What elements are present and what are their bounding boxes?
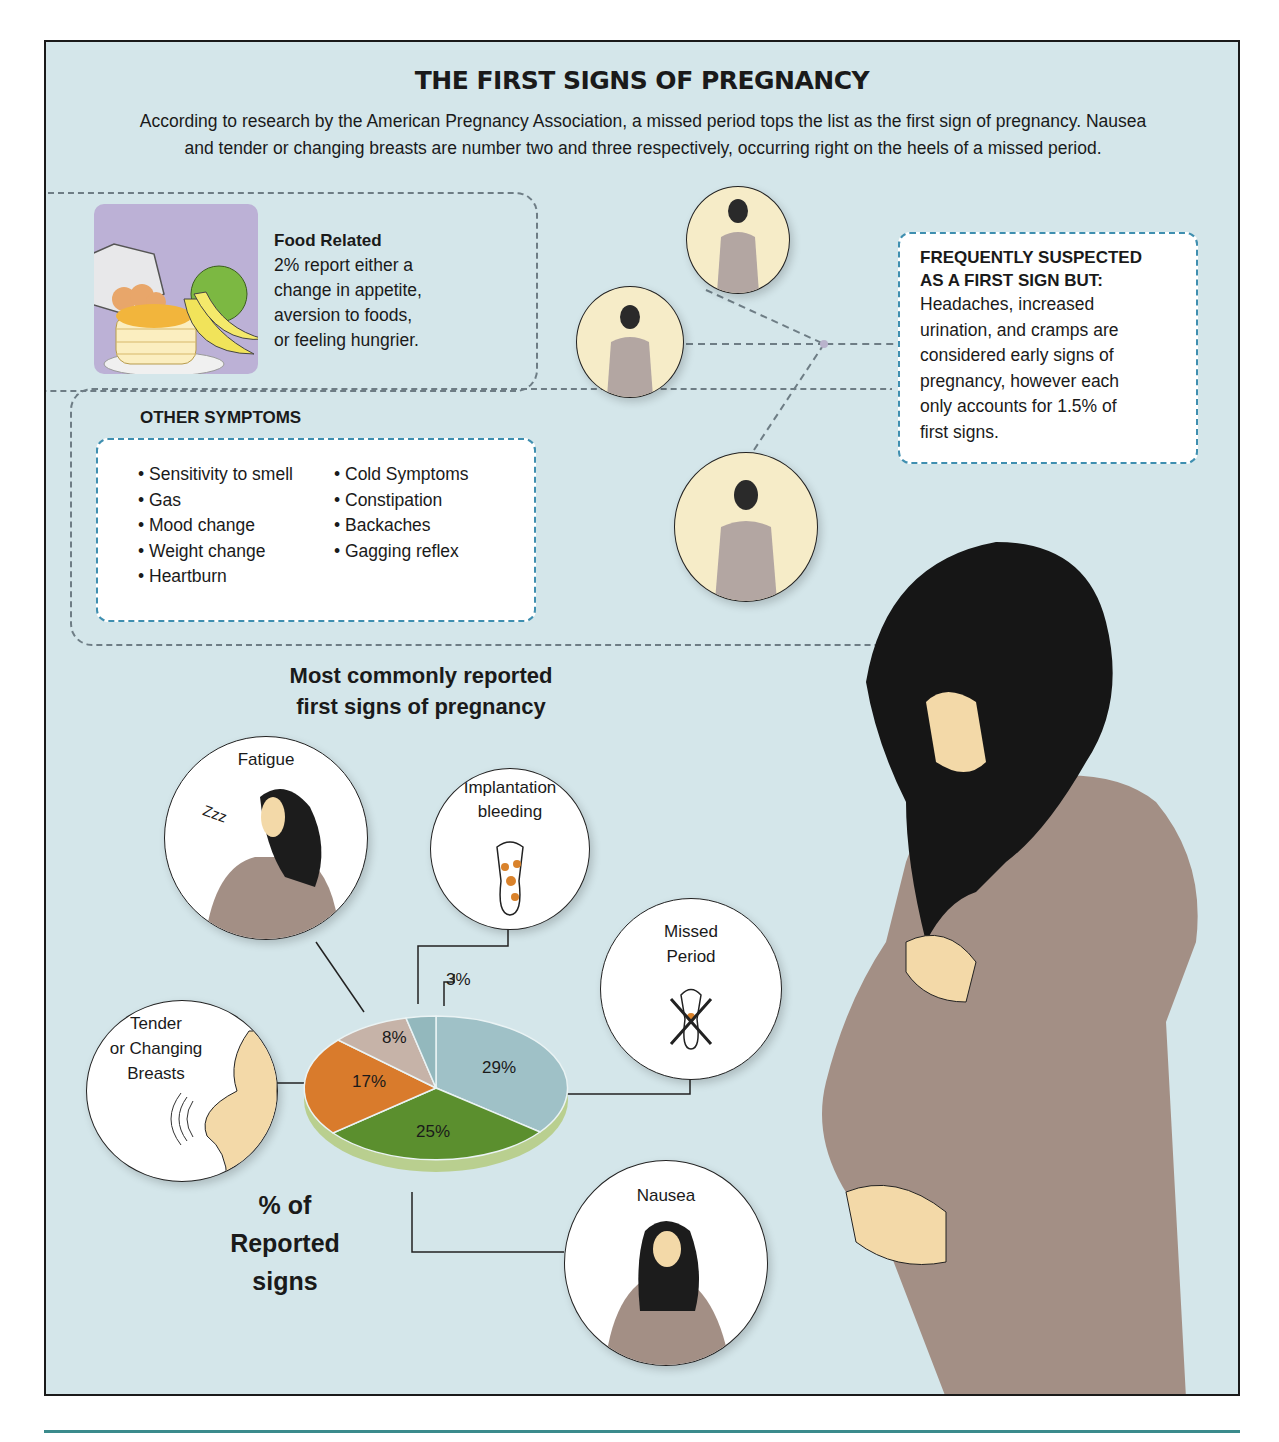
pie-label-breasts: 17% bbox=[352, 1072, 386, 1092]
bottom-divider bbox=[44, 1430, 1240, 1433]
pie-label-missed-period: 29% bbox=[482, 1058, 516, 1078]
pie-label-fatigue: 8% bbox=[382, 1028, 407, 1048]
infographic-panel: THE FIRST SIGNS OF PREGNANCY According t… bbox=[44, 40, 1240, 1396]
pie-label-implantation: 3% bbox=[446, 970, 471, 990]
chart-subtitle: % of Reported signs bbox=[200, 1186, 370, 1300]
pie-label-nausea: 25% bbox=[416, 1122, 450, 1142]
